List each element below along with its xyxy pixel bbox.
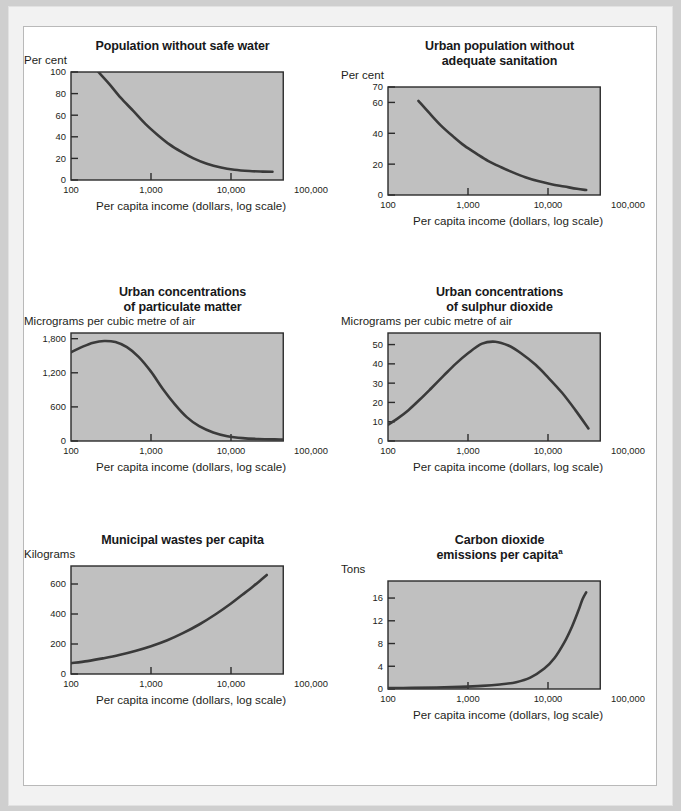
chart-panel-population-without-safe-water: Population without safe water Per cent 0… [24, 39, 341, 292]
y-axis-unit-label: Micrograms per cubic metre of air [24, 315, 341, 327]
chart-svg: 010203040501001,00010,000100,000Per capi… [341, 327, 658, 502]
y-axis-tick-label: 20 [373, 397, 383, 408]
x-axis-tick-label: 100,000 [294, 678, 328, 689]
x-axis-tick-label: 10,000 [217, 678, 246, 689]
plot-area-background [71, 333, 283, 441]
chart-svg: 0204060701001,00010,000100,000Per capita… [341, 81, 658, 256]
y-axis-tick-label: 30 [373, 378, 383, 389]
y-axis-unit-label: Kilograms [24, 548, 341, 560]
title-footnote-marker: a [558, 547, 562, 556]
x-axis-tick-label: 10,000 [534, 693, 563, 704]
x-axis-tick-label: 100 [380, 693, 396, 704]
y-axis-tick-label: 16 [373, 592, 383, 603]
y-axis-tick-label: 70 [373, 81, 383, 92]
y-axis-tick-label: 50 [373, 339, 383, 350]
chart-title: Municipal wastes per capita [24, 533, 341, 548]
chart-canvas: 0204060801001001,00010,000100,000Per cap… [24, 66, 341, 241]
y-axis-tick-label: 600 [50, 401, 66, 412]
y-axis-unit-label: Tons [341, 563, 658, 575]
x-axis-tick-label: 1,000 [139, 678, 162, 689]
chart-svg: 02004006001001,00010,000100,000Per capit… [24, 560, 341, 735]
chart-panel-carbon-dioxide-emissions-per-capita: Carbon dioxideemissions per capitaa Tons… [341, 533, 658, 786]
chart-canvas: 010203040501001,00010,000100,000Per capi… [341, 327, 658, 502]
chart-canvas: 0204060701001,00010,000100,000Per capita… [341, 81, 658, 256]
chart-panel-urban-population-without-adequate-sanitation: Urban population withoutadequate sanitat… [341, 39, 658, 292]
y-axis-tick-label: 20 [373, 159, 383, 170]
y-axis-tick-label: 1,800 [43, 333, 66, 344]
chart-panel-urban-concentrations-of-sulphur-dioxide: Urban concentrationsof sulphur dioxide M… [341, 285, 658, 538]
x-axis-tick-label: 1,000 [139, 445, 162, 456]
y-axis-tick-label: 10 [373, 416, 383, 427]
chart-canvas: 02004006001001,00010,000100,000Per capit… [24, 560, 341, 735]
y-axis-unit-label: Micrograms per cubic metre of air [341, 315, 658, 327]
chart-canvas: 06001,2001,8001001,00010,000100,000Per c… [24, 327, 341, 502]
y-axis-unit-label: Per cent [341, 69, 658, 81]
x-axis-tick-label: 100 [63, 184, 79, 195]
chart-title: Urban population withoutadequate sanitat… [341, 39, 658, 69]
x-axis-tick-label: 10,000 [217, 184, 246, 195]
y-axis-tick-label: 60 [56, 110, 66, 121]
x-axis-caption: Per capita income (dollars, log scale) [413, 214, 603, 227]
x-axis-tick-label: 100 [63, 678, 79, 689]
chart-grid: Population without safe water Per cent 0… [24, 27, 658, 787]
x-axis-tick-label: 1,000 [139, 184, 162, 195]
x-axis-tick-label: 100,000 [294, 184, 328, 195]
chart-svg: 04812161001,00010,000100,000Per capita i… [341, 575, 658, 750]
y-axis-tick-label: 12 [373, 615, 383, 626]
y-axis-unit-label: Per cent [24, 54, 341, 66]
chart-title: Carbon dioxideemissions per capitaa [341, 533, 658, 563]
chart-svg: 06001,2001,8001001,00010,000100,000Per c… [24, 327, 341, 502]
x-axis-tick-label: 10,000 [534, 199, 563, 210]
plot-area-background [388, 333, 600, 441]
x-axis-caption: Per capita income (dollars, log scale) [96, 460, 286, 473]
x-axis-tick-label: 100,000 [611, 445, 645, 456]
x-axis-tick-label: 10,000 [217, 445, 246, 456]
page-root: Population without safe water Per cent 0… [0, 0, 681, 811]
y-axis-tick-label: 60 [373, 97, 383, 108]
x-axis-tick-label: 100,000 [294, 445, 328, 456]
y-axis-tick-label: 1,200 [43, 367, 66, 378]
chart-canvas: 04812161001,00010,000100,000Per capita i… [341, 575, 658, 750]
y-axis-tick-label: 80 [56, 88, 66, 99]
chart-title: Urban concentrationsof particulate matte… [24, 285, 341, 315]
x-axis-tick-label: 1,000 [456, 445, 479, 456]
y-axis-tick-label: 600 [50, 578, 66, 589]
chart-title: Urban concentrationsof sulphur dioxide [341, 285, 658, 315]
y-axis-tick-label: 20 [56, 153, 66, 164]
chart-title: Population without safe water [24, 39, 341, 54]
x-axis-tick-label: 10,000 [534, 445, 563, 456]
x-axis-tick-label: 100 [63, 445, 79, 456]
y-axis-tick-label: 400 [50, 608, 66, 619]
plot-area-background [71, 72, 283, 180]
x-axis-tick-label: 100 [380, 445, 396, 456]
y-axis-tick-label: 40 [373, 128, 383, 139]
x-axis-tick-label: 100 [380, 199, 396, 210]
x-axis-caption: Per capita income (dollars, log scale) [413, 460, 603, 473]
x-axis-caption: Per capita income (dollars, log scale) [413, 708, 603, 721]
x-axis-tick-label: 100,000 [611, 199, 645, 210]
x-axis-caption: Per capita income (dollars, log scale) [96, 693, 286, 706]
figure-sheet: Population without safe water Per cent 0… [23, 26, 657, 786]
y-axis-tick-label: 4 [378, 661, 383, 672]
chart-panel-municipal-wastes-per-capita: Municipal wastes per capita Kilograms 02… [24, 533, 341, 786]
x-axis-tick-label: 100,000 [611, 693, 645, 704]
y-axis-tick-label: 100 [50, 66, 66, 77]
y-axis-tick-label: 40 [373, 358, 383, 369]
chart-panel-urban-concentrations-of-particulate-matter: Urban concentrationsof particulate matte… [24, 285, 341, 538]
x-axis-tick-label: 1,000 [456, 693, 479, 704]
y-axis-tick-label: 8 [378, 638, 383, 649]
y-axis-tick-label: 200 [50, 638, 66, 649]
x-axis-tick-label: 1,000 [456, 199, 479, 210]
x-axis-caption: Per capita income (dollars, log scale) [96, 199, 286, 212]
chart-svg: 0204060801001001,00010,000100,000Per cap… [24, 66, 341, 241]
y-axis-tick-label: 40 [56, 131, 66, 142]
